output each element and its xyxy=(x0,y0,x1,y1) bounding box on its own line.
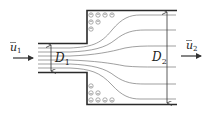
vortex-icon xyxy=(110,13,114,17)
svg-text:D2: D2 xyxy=(151,50,167,66)
vortex-icon xyxy=(89,13,93,17)
d1-symbol: D xyxy=(54,51,65,65)
u2-symbol: u xyxy=(186,39,193,52)
dimension-d2: D2 xyxy=(151,12,167,103)
dimension-d1: D1 xyxy=(51,45,70,71)
vortex-icon xyxy=(89,98,93,102)
vortex-icon xyxy=(103,98,107,102)
d1-subscript: 1 xyxy=(65,58,70,67)
vortex-icon xyxy=(96,98,100,102)
d2-symbol: D xyxy=(151,50,162,64)
u2-subscript: 2 xyxy=(193,45,197,53)
vortex-icon xyxy=(96,91,100,95)
vortex-icon xyxy=(89,91,93,95)
lower-wall xyxy=(38,73,177,105)
sudden-expansion-diagram: D1 D2 u1 u2 xyxy=(0,0,209,113)
vortex-icon xyxy=(89,20,93,24)
vortex-icon xyxy=(89,27,93,31)
u1-subscript: 1 xyxy=(17,47,21,55)
d2-subscript: 2 xyxy=(162,57,167,66)
vortex-region-top xyxy=(89,13,114,31)
svg-text:D1: D1 xyxy=(54,51,70,67)
inlet-velocity: u1 xyxy=(10,41,33,58)
upper-wall xyxy=(38,11,177,44)
vortex-icon xyxy=(96,20,100,24)
vortex-icon xyxy=(110,98,114,102)
svg-text:u1: u1 xyxy=(10,41,22,55)
outlet-velocity: u2 xyxy=(181,39,201,56)
u1-symbol: u xyxy=(10,41,17,54)
vortex-region-bottom xyxy=(89,84,114,102)
vortex-icon xyxy=(89,84,93,88)
vortex-icon xyxy=(103,13,107,17)
svg-text:u2: u2 xyxy=(186,39,198,53)
vortex-icon xyxy=(96,13,100,17)
